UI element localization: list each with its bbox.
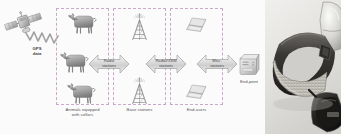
group-end-users-caption: End-users <box>170 107 223 112</box>
link-arrow-radio-stations: Radio stations <box>88 52 130 76</box>
laptop-icon <box>185 16 209 36</box>
gps-data-label: GPS data <box>22 47 52 57</box>
goat-icon <box>60 52 90 74</box>
server-icon <box>237 52 261 77</box>
radio-tower-icon <box>128 76 151 106</box>
goat-icon <box>67 83 97 105</box>
link-arrow-misc-stations: Misc. stations <box>196 52 238 76</box>
diagram-canvas: GPS data Animals equipped with collars <box>0 0 341 134</box>
gps-collar-photo <box>265 0 341 134</box>
group-animals-caption: Animals equipped with collars <box>56 107 109 117</box>
link-arrow-radio-gsm-stations: Radio/GSM stations <box>145 52 187 76</box>
laptop-icon <box>185 83 209 103</box>
radio-tower-icon <box>128 12 151 42</box>
group-base-stations-caption: Base stations <box>113 107 166 112</box>
goat-icon <box>68 13 98 35</box>
gps-signal-icon <box>25 31 59 47</box>
endpoint-label: End-point <box>232 79 266 84</box>
